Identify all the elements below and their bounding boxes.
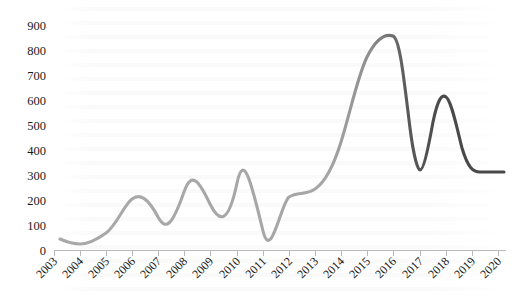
x-tick-label: 2020 <box>477 254 504 281</box>
x-tick-label: 2003 <box>33 254 60 281</box>
x-tick-label: 2009 <box>189 254 216 281</box>
x-axis <box>54 251 506 257</box>
chart-svg: 900 800 700 600 500 400 300 200 100 0 <box>0 0 528 300</box>
x-tick-label: 2015 <box>346 254 373 281</box>
line-chart: 900 800 700 600 500 400 300 200 100 0 <box>0 0 528 300</box>
x-tick-label: 2008 <box>163 254 190 281</box>
x-tick-label: 2013 <box>294 254 321 281</box>
y-tick-label: 400 <box>27 144 46 158</box>
y-tick-label: 500 <box>27 119 46 133</box>
x-tick-label: 2006 <box>111 254 138 281</box>
x-tick-label: 2016 <box>372 254 399 281</box>
y-tick-label: 300 <box>27 169 46 183</box>
y-tick-label: 700 <box>27 69 46 83</box>
y-tick-label: 0 <box>40 244 46 258</box>
series-path <box>60 35 504 244</box>
x-tick-label: 2007 <box>137 254 164 281</box>
x-tick-label: 2012 <box>268 254 295 281</box>
y-tick-label: 900 <box>27 19 46 33</box>
x-tick-label: 2017 <box>399 254 426 281</box>
x-tick-label: 2005 <box>85 254 112 281</box>
y-tick-label: 800 <box>27 44 46 58</box>
x-tick-label: 2014 <box>320 254 347 281</box>
x-tick-label: 2011 <box>243 254 270 281</box>
x-tick-label: 2019 <box>451 254 478 281</box>
x-tick-label: 2018 <box>425 254 452 281</box>
y-tick-label: 100 <box>27 219 46 233</box>
x-tick-label: 2010 <box>216 254 243 281</box>
y-tick-label: 200 <box>27 194 46 208</box>
y-axis-labels: 900 800 700 600 500 400 300 200 100 0 <box>27 19 46 258</box>
data-series-line <box>60 35 504 244</box>
x-tick-label: 2004 <box>59 254 86 281</box>
x-axis-labels: 2003 2004 2005 2006 2007 2008 2009 2010 … <box>33 254 504 281</box>
y-tick-label: 600 <box>27 94 46 108</box>
